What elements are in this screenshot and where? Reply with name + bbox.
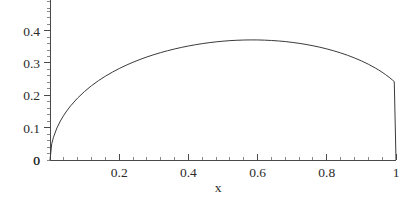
plot-figure: 00.10.20.30.4 00.20.40.60.81 x [0,0,415,200]
x-axis-title: x [215,180,222,195]
x-tick-label: 0.8 [318,165,335,180]
x-tick-label: 0 [33,153,40,168]
data-curve [50,40,396,160]
plot-canvas: 00.10.20.30.4 00.20.40.60.81 x [0,0,415,200]
x-tick-label: 0.2 [111,165,128,180]
x-tick-label: 0.6 [249,165,266,180]
y-tick-label: 0.4 [23,24,40,39]
y-axis-major-ticks [44,31,50,128]
x-tick-label: 1 [393,165,400,180]
y-tick-label: 0.3 [23,56,40,71]
y-tick-label: 0.2 [23,88,40,103]
x-tick-label: 0.4 [180,165,197,180]
y-axis-tick-labels: 00.10.20.30.4 [23,24,40,168]
y-tick-label: 0.1 [23,121,40,136]
